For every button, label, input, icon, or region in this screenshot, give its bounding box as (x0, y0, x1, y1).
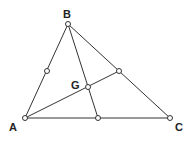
vertex-c-point (168, 116, 173, 121)
triangle-diagram: B A C G (0, 0, 189, 147)
vertex-a-point (23, 116, 28, 121)
vertex-b-point (66, 22, 71, 27)
midpoint-ac-point (96, 116, 101, 121)
label-g: G (71, 79, 80, 91)
midpoint-bc-point (117, 69, 122, 74)
label-c: C (175, 121, 183, 133)
midpoint-ab-point (45, 69, 50, 74)
label-b: B (63, 8, 71, 20)
centroid-g-point (86, 85, 91, 90)
label-a: A (9, 121, 17, 133)
